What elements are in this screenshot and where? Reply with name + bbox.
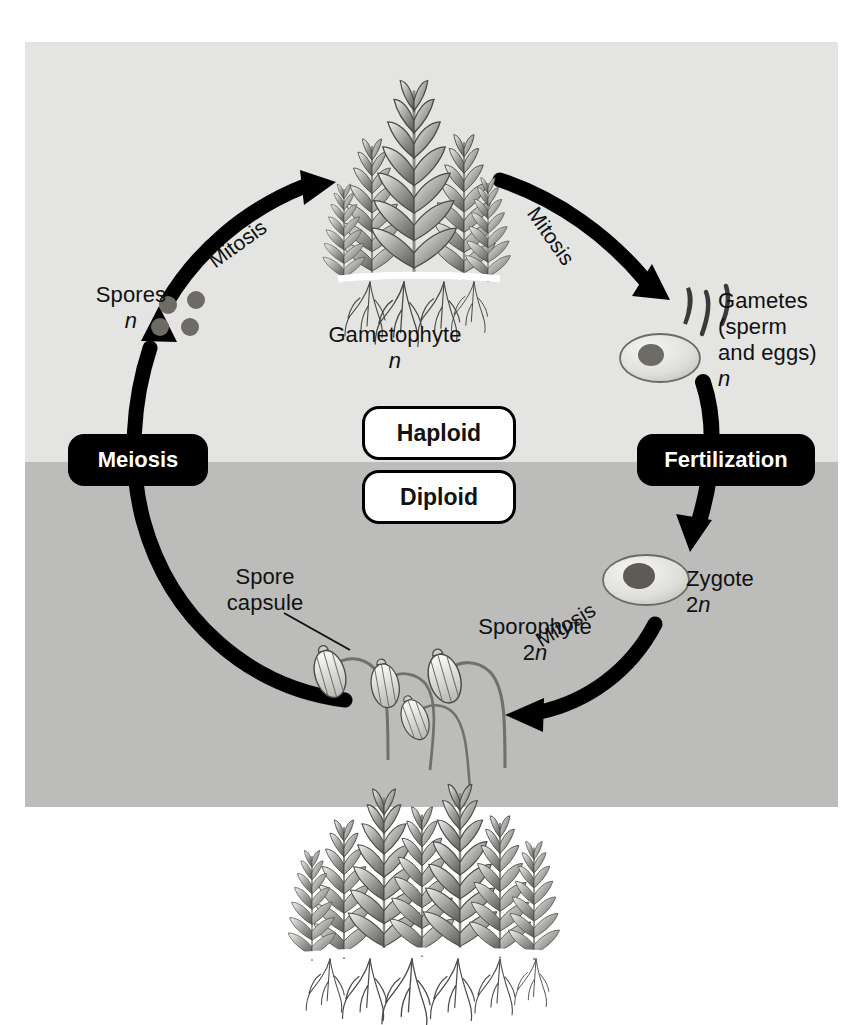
zygote-cell-icon bbox=[603, 555, 689, 605]
badge-meiosis: Meiosis bbox=[68, 434, 208, 486]
label-spore-capsule: Spore capsule bbox=[200, 564, 330, 616]
badge-diploid: Diploid bbox=[362, 470, 516, 524]
label-zygote: Zygote 2n bbox=[686, 566, 826, 618]
leader-line bbox=[284, 613, 350, 650]
label-sporophyte: Sporophyte 2n bbox=[440, 614, 630, 666]
egg-cell-icon bbox=[620, 334, 700, 382]
label-gametophyte: Gametophyte n bbox=[283, 322, 507, 374]
arrow-mitosis-gametophyte-to-gametes bbox=[500, 180, 670, 300]
label-gametes: Gametes (sperm and eggs) n bbox=[718, 288, 858, 392]
badge-fertilization: Fertilization bbox=[637, 434, 815, 486]
figure-canvas: Spores n Gametophyte n Gametes (sperm an… bbox=[0, 0, 867, 1025]
badge-haploid: Haploid bbox=[362, 406, 516, 460]
label-spores: Spores n bbox=[83, 282, 179, 334]
bottom-moss-illustration bbox=[288, 784, 565, 1025]
gametophyte-illustration bbox=[323, 81, 511, 347]
gametes-icon bbox=[620, 286, 728, 382]
